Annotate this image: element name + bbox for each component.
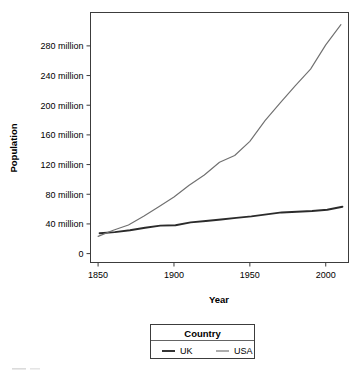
x-tick-label: 1950	[240, 270, 260, 280]
y-tick-label: 80 million	[45, 190, 83, 200]
y-tick-label: 120 million	[40, 160, 83, 170]
legend-label-usa: USA	[234, 346, 253, 356]
legend-title: Country	[184, 328, 221, 339]
x-tick-label: 1850	[88, 270, 108, 280]
x-tick-label: 2000	[316, 270, 336, 280]
chart-figure: 040 million80 million120 million160 mill…	[0, 0, 361, 377]
y-axis-title: Population	[8, 123, 19, 172]
x-axis: 1850190019502000	[88, 263, 336, 280]
y-axis: 040 million80 million120 million160 mill…	[40, 41, 90, 259]
x-tick-label: 1900	[164, 270, 184, 280]
population-line-chart: 040 million80 million120 million160 mill…	[0, 0, 361, 377]
y-tick-label: 240 million	[40, 71, 83, 81]
y-tick-label: 200 million	[40, 101, 83, 111]
y-tick-label: 280 million	[40, 41, 83, 51]
scan-artifact-left	[12, 368, 26, 370]
y-tick-label: 160 million	[40, 130, 83, 140]
y-tick-label: 40 million	[45, 219, 83, 229]
x-axis-title: Year	[209, 294, 229, 305]
scan-artifact-right	[30, 368, 40, 370]
y-tick-label: 0	[78, 249, 83, 259]
legend-label-uk: UK	[180, 346, 193, 356]
chart-legend: Country UKUSA	[151, 325, 255, 359]
